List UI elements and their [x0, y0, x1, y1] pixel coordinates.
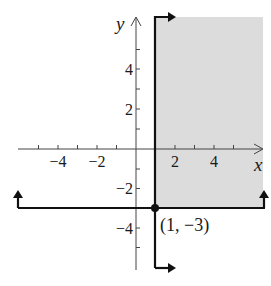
- y-tick-label: −2: [116, 180, 133, 197]
- shaded-region: [155, 17, 263, 208]
- graph-canvas: y x −4 −2 2 4 4 2 −2 −4 (1, −3): [0, 0, 271, 286]
- y-tick-label: 4: [125, 61, 133, 78]
- x-tick-label: 4: [210, 153, 218, 170]
- x-tick-label: −2: [88, 153, 105, 170]
- y-tick-label: −4: [116, 220, 133, 237]
- vertex-label: (1, −3): [160, 215, 209, 236]
- x-tick-label: 2: [171, 153, 179, 170]
- y-axis-label: y: [114, 13, 125, 34]
- y-tick-label: 2: [125, 101, 133, 118]
- x-tick-label: −4: [49, 153, 66, 170]
- x-axis-label: x: [253, 154, 263, 175]
- vertex-point: [151, 204, 159, 212]
